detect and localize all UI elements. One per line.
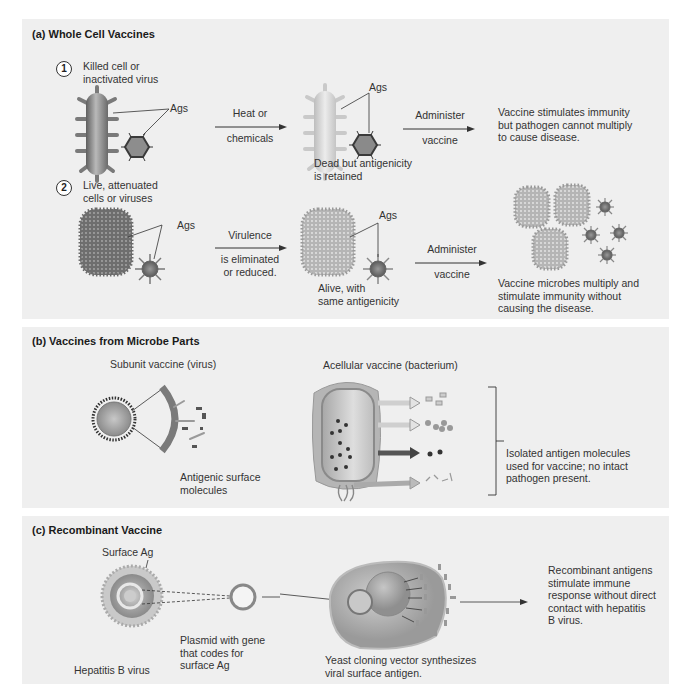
- acellular-bacterium-icon: [310, 377, 510, 502]
- surface-ag-label: Surface Ag: [102, 546, 153, 559]
- arrow-label-bottom: vaccine: [404, 134, 476, 147]
- ags-label: Ags: [379, 209, 397, 222]
- acellular-label: Acellular vaccine (bacterium): [323, 359, 458, 372]
- bracket-icon: [488, 387, 504, 507]
- step-1-badge: 1: [56, 61, 72, 77]
- plasmid-caption: Plasmid with gene that codes for surface…: [180, 634, 265, 672]
- arrow-right-icon: [415, 259, 487, 267]
- virus-caption: Hepatitis B virus: [74, 664, 150, 677]
- arrow-right-icon: [215, 123, 287, 131]
- step-2-result: Vaccine microbes multiply and stimulate …: [498, 277, 639, 315]
- arrow-label-top: Administer: [404, 109, 476, 122]
- step-2-label: Live, attenuated cells or viruses: [83, 179, 158, 204]
- panel-c-title: (c) Recombinant Vaccine: [32, 524, 162, 536]
- subunit-virus-icon: [90, 379, 270, 469]
- arrow-label-top: Administer: [416, 243, 488, 256]
- arrow-label-bottom: vaccine: [416, 268, 488, 281]
- bracket-caption: Isolated antigen molecules used for vacc…: [506, 447, 630, 485]
- panel-b-title: (b) Vaccines from Microbe Parts: [32, 335, 200, 347]
- panel-whole-cell-vaccines: (a) Whole Cell Vaccines 1 Killed cell or…: [22, 19, 669, 319]
- panel-microbe-parts: (b) Vaccines from Microbe Parts Subunit …: [22, 327, 669, 508]
- step-1-label: Killed cell or inactivated virus: [83, 60, 158, 85]
- panel-recombinant-vaccine: (c) Recombinant Vaccine Surface Ag Hepat…: [22, 516, 669, 684]
- arrow-label-top: Heat or: [215, 107, 285, 120]
- step-1-result: Vaccine stimulates immunity but pathogen…: [498, 106, 632, 144]
- arrow-label-bottom: is eliminated or reduced.: [215, 253, 285, 278]
- subunit-caption: Antigenic surface molecules: [180, 471, 261, 496]
- ags-label: Ags: [369, 81, 387, 94]
- ags-label: Ags: [170, 102, 188, 115]
- subunit-label: Subunit vaccine (virus): [110, 358, 216, 371]
- panel-a-title: (a) Whole Cell Vaccines: [32, 28, 155, 40]
- recombinant-result: Recombinant antigens stimulate immune re…: [548, 564, 656, 627]
- dead-caption: Dead but antigenicity is retained: [314, 157, 412, 182]
- arrow-right-icon: [403, 125, 475, 133]
- step-2-badge: 2: [56, 180, 72, 196]
- alive-caption: Alive, with same antigenicity: [318, 282, 399, 307]
- yeast-caption: Yeast cloning vector synthesizes viral s…: [325, 654, 476, 679]
- arrow-label-top: Virulence: [215, 229, 285, 242]
- arrow-label-bottom: chemicals: [215, 132, 285, 145]
- ags-label: Ags: [177, 219, 195, 232]
- arrow-right-icon: [215, 244, 287, 252]
- hepatitis-b-virus-icon: [80, 560, 280, 630]
- multiplied-microbes-icon: [507, 181, 657, 286]
